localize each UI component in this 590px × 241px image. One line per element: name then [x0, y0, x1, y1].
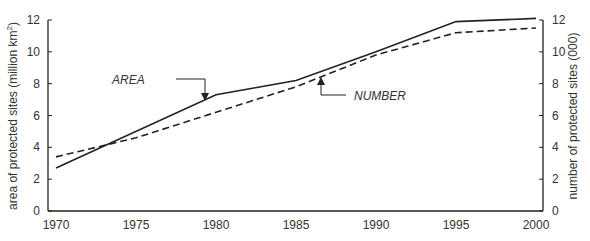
- axes: 0246810120246810121970197519801985199019…: [5, 13, 580, 232]
- area-annotation: AREA: [111, 73, 145, 87]
- x-tick-label: 1990: [363, 218, 390, 232]
- number-annotation: NUMBER: [354, 89, 406, 103]
- x-tick-label: 1985: [283, 218, 310, 232]
- y-axis-label: area of protected sites (million km2): [5, 22, 20, 210]
- y2-tick-label: 12: [552, 13, 566, 27]
- series-area-line: [56, 18, 536, 168]
- x-tick-label: 1970: [43, 218, 70, 232]
- y2-tick-label: 4: [552, 140, 559, 154]
- y-tick-label: 4: [33, 140, 40, 154]
- y2-tick-label: 2: [552, 172, 559, 186]
- x-tick-label: 1975: [123, 218, 150, 232]
- series-number-line: [56, 28, 536, 157]
- x-tick-label: 1980: [203, 218, 230, 232]
- y2-axis-label: number of protected sites (000): [566, 33, 580, 200]
- y2-tick-label: 6: [552, 109, 559, 123]
- y2-tick-label: 10: [552, 45, 566, 59]
- y-tick-label: 2: [33, 172, 40, 186]
- y2-tick-label: 8: [552, 77, 559, 91]
- x-tick-label: 2000: [523, 218, 550, 232]
- x-tick-label: 1995: [443, 218, 470, 232]
- y-tick-label: 6: [33, 109, 40, 123]
- y-tick-label: 12: [27, 13, 41, 27]
- y2-tick-label: 0: [552, 204, 559, 218]
- y-tick-label: 8: [33, 77, 40, 91]
- plot-lines: [56, 18, 536, 168]
- y-tick-label: 10: [27, 45, 41, 59]
- line-chart: 0246810120246810121970197519801985199019…: [0, 0, 590, 241]
- y-tick-label: 0: [33, 204, 40, 218]
